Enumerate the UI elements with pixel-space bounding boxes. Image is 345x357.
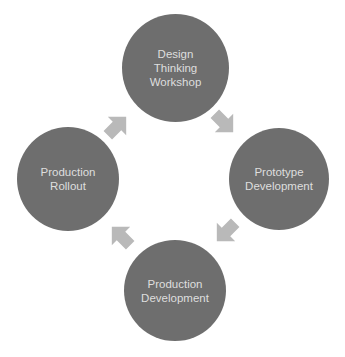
- arrow-northwest-icon: [100, 215, 142, 257]
- node-production-rollout: Production Rollout: [17, 127, 119, 231]
- node-production-development: Production Development: [124, 240, 226, 341]
- node-label: Prototype Development: [245, 165, 313, 193]
- node-label: Production Development: [141, 277, 209, 305]
- node-label: Production Rollout: [41, 165, 96, 193]
- node-design-thinking-workshop: Design Thinking Workshop: [122, 14, 229, 122]
- arrow-southwest-icon: [205, 211, 247, 253]
- node-prototype-development: Prototype Development: [229, 128, 329, 230]
- node-label: Design Thinking Workshop: [150, 47, 202, 89]
